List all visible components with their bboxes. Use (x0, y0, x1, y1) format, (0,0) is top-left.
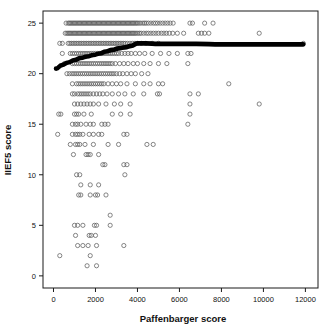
data-point (131, 92, 135, 96)
data-point (122, 61, 126, 65)
y-tick-label: 10 (28, 171, 36, 180)
data-point (133, 82, 137, 86)
data-point (142, 92, 146, 96)
y-axis-ticks (39, 23, 43, 276)
data-point (190, 21, 194, 25)
data-point (145, 142, 149, 146)
data-point (148, 61, 152, 65)
data-point (101, 92, 105, 96)
data-point (105, 92, 109, 96)
data-point (81, 132, 85, 136)
data-point (175, 31, 179, 35)
data-point (112, 102, 116, 106)
data-point (186, 122, 190, 126)
data-point (110, 92, 114, 96)
data-point (94, 243, 98, 247)
data-point (94, 264, 98, 268)
x-axis-title: Paffenbarger score (140, 313, 227, 324)
data-point (88, 254, 92, 258)
data-point (88, 183, 92, 187)
chart-canvas: 020004000600080001000012000 0510152025 P… (0, 0, 329, 328)
data-point (129, 51, 133, 55)
data-point (128, 102, 132, 106)
data-point (85, 264, 89, 268)
y-tick-label: 25 (28, 19, 36, 28)
data-point (171, 21, 175, 25)
data-point (203, 31, 207, 35)
data-point (84, 122, 88, 126)
y-axis-title: IIEF5 score (2, 125, 13, 176)
data-point (106, 122, 110, 126)
data-point (89, 112, 93, 116)
data-point (156, 82, 160, 86)
data-point (182, 31, 186, 35)
data-point (148, 82, 152, 86)
data-point (175, 51, 179, 55)
data-point (58, 254, 62, 258)
data-point (142, 82, 146, 86)
data-point (110, 82, 114, 86)
data-point (100, 132, 104, 136)
data-point (91, 122, 95, 126)
data-point (119, 102, 123, 106)
data-point (110, 112, 114, 116)
data-point (133, 51, 137, 55)
data-point (68, 142, 72, 146)
data-point (151, 142, 155, 146)
data-point (71, 152, 75, 156)
data-point (189, 51, 193, 55)
y-tick-label: 5 (32, 221, 36, 230)
data-point (81, 223, 85, 227)
data-point (140, 72, 144, 76)
data-point (167, 51, 171, 55)
data-point (161, 82, 165, 86)
data-point (150, 51, 154, 55)
data-point (104, 102, 108, 106)
data-point (82, 112, 86, 116)
data-point (203, 21, 207, 25)
data-point (97, 102, 101, 106)
data-point (207, 31, 211, 35)
data-point (188, 102, 192, 106)
data-point (133, 72, 137, 76)
data-point (88, 193, 92, 197)
data-point (114, 82, 118, 86)
data-point (104, 193, 108, 197)
data-point (76, 223, 80, 227)
y-tick-label: 15 (28, 120, 36, 129)
data-point (106, 142, 110, 146)
x-tick-label: 8000 (213, 295, 230, 304)
data-point (78, 173, 82, 177)
plot-frame (43, 11, 318, 288)
data-point (186, 61, 190, 65)
data-point (121, 72, 125, 76)
data-point (86, 243, 90, 247)
data-point (125, 163, 129, 167)
data-point (211, 21, 215, 25)
data-point (123, 92, 127, 96)
y-tick-label: 0 (32, 272, 36, 281)
data-points (56, 21, 306, 268)
data-point (83, 142, 87, 146)
data-point (79, 183, 83, 187)
data-point (113, 61, 117, 65)
data-point (106, 82, 110, 86)
data-point (60, 51, 64, 55)
data-point (227, 82, 231, 86)
data-point (165, 61, 169, 65)
data-point (60, 41, 64, 45)
x-tick-label: 2000 (87, 295, 104, 304)
data-point (108, 223, 112, 227)
x-tick-label: 4000 (129, 295, 146, 304)
data-point (91, 102, 95, 106)
x-tick-label: 10000 (253, 295, 274, 304)
data-point (196, 92, 200, 96)
data-point (257, 31, 261, 35)
data-point (128, 112, 132, 116)
data-point (257, 102, 261, 106)
data-point (91, 132, 95, 136)
data-point (156, 61, 160, 65)
x-tick-label: 6000 (171, 295, 188, 304)
x-tick-label: 12000 (295, 295, 316, 304)
data-point (79, 122, 83, 126)
